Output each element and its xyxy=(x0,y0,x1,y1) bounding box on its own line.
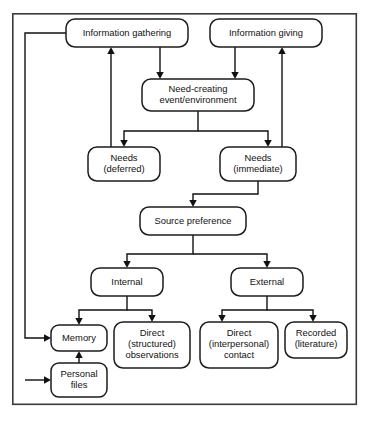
node-personal-files[interactable]: Personal files xyxy=(51,363,107,397)
node-information-giving[interactable]: Information giving xyxy=(210,19,322,47)
edge-need-to-deferred xyxy=(124,111,198,142)
node-internal[interactable]: Internal xyxy=(91,268,163,296)
arrowhead-giving-to-need xyxy=(231,72,238,79)
edge-source-to-external xyxy=(193,254,267,263)
node-label-direct-interpersonal-line3: contact xyxy=(224,349,255,360)
node-label-direct-interpersonal-line1: Direct xyxy=(227,327,252,338)
arrowhead-external-to-direct-interpersonal xyxy=(218,315,225,322)
arrowhead-source-to-external xyxy=(263,261,270,268)
node-label-personal-files-line2: files xyxy=(71,379,88,390)
node-label-direct-structured-line1: Direct xyxy=(140,327,165,338)
flowchart-canvas: Information gathering Information giving… xyxy=(0,0,369,424)
node-need-creating-event-environment[interactable]: Need-creating event/environment xyxy=(142,79,254,111)
edge-need-to-immediate xyxy=(198,131,268,142)
edge-internal-to-memory xyxy=(79,296,127,320)
arrowhead-deferred-to-gathering xyxy=(107,47,114,54)
node-label-information-giving: Information giving xyxy=(229,27,303,38)
edge-gathering-to-memory xyxy=(25,33,66,338)
node-source-preference[interactable]: Source preference xyxy=(140,207,246,235)
arrowhead-external-to-recorded xyxy=(309,315,316,322)
node-needs-immediate[interactable]: Needs (immediate) xyxy=(220,147,296,181)
node-label-memory: Memory xyxy=(62,332,96,343)
node-direct-structured-observations[interactable]: Direct (structured) observations xyxy=(114,322,190,368)
arrowhead-need-to-immediate xyxy=(264,140,271,147)
node-label-needs-deferred-line1: Needs xyxy=(110,152,137,163)
node-external[interactable]: External xyxy=(231,268,303,296)
flowchart-diagram: Information gathering Information giving… xyxy=(0,0,369,424)
edge-internal-to-direct-structured xyxy=(127,310,152,317)
node-label-recorded-line1: Recorded xyxy=(296,327,337,338)
arrowhead-need-to-deferred xyxy=(120,140,127,147)
node-label-needs-deferred-line2: (deferred) xyxy=(103,163,144,174)
node-label-direct-interpersonal-line2: (interpersonal) xyxy=(209,338,269,349)
node-label-source-preference: Source preference xyxy=(154,215,231,226)
node-label-internal: Internal xyxy=(111,276,142,287)
edge-source-to-internal xyxy=(127,235,193,263)
node-label-needs-immediate-line2: (immediate) xyxy=(233,163,283,174)
node-label-need-creating-line1: Need-creating xyxy=(169,83,228,94)
node-label-personal-files-line1: Personal xyxy=(60,368,97,379)
arrowhead-internal-to-memory xyxy=(75,318,82,325)
node-label-direct-structured-line3: observations xyxy=(125,349,178,360)
node-label-recorded-line2: (literature) xyxy=(295,338,338,349)
node-needs-deferred[interactable]: Needs (deferred) xyxy=(88,147,160,181)
arrowhead-immediate-to-giving xyxy=(278,47,285,54)
node-recorded-literature[interactable]: Recorded (literature) xyxy=(285,322,347,358)
edge-external-to-direct-interpersonal xyxy=(222,296,267,317)
node-label-external: External xyxy=(250,276,284,287)
node-label-needs-immediate-line1: Needs xyxy=(244,152,271,163)
arrowhead-source-to-internal xyxy=(123,261,130,268)
edge-external-to-recorded xyxy=(267,310,313,317)
node-label-information-gathering: Information gathering xyxy=(83,27,172,38)
arrowhead-gathering-to-memory xyxy=(44,334,51,341)
node-label-need-creating-line2: event/environment xyxy=(159,94,237,105)
arrowhead-gathering-to-personal-files xyxy=(44,376,51,383)
node-information-gathering[interactable]: Information gathering xyxy=(66,19,188,47)
arrowhead-gathering-to-need xyxy=(156,72,163,79)
node-label-direct-structured-line2: (structured) xyxy=(128,338,176,349)
arrowhead-immediate-to-source xyxy=(189,200,196,207)
arrowhead-internal-to-direct-structured xyxy=(148,315,155,322)
arrowhead-personal-files-to-memory xyxy=(75,351,82,358)
node-direct-interpersonal-contact[interactable]: Direct (interpersonal) contact xyxy=(200,322,278,368)
node-memory[interactable]: Memory xyxy=(51,325,107,351)
edge-immediate-to-source xyxy=(193,181,258,202)
